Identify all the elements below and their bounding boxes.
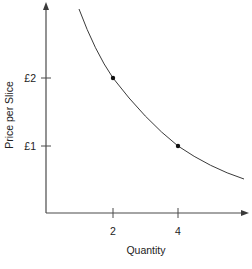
y-axis-label: Price per Slice: [3, 81, 15, 149]
demand-curve: [79, 9, 244, 179]
y-tick-label-1: £1: [24, 140, 36, 152]
data-point-q4-p1: [176, 144, 180, 148]
x-axis-arrow-icon: [241, 210, 249, 216]
x-tick-label-2: 2: [110, 225, 116, 237]
data-point-q2-p2: [111, 76, 115, 80]
y-tick-label-2: £2: [24, 72, 36, 84]
y-axis-arrow-icon: [43, 2, 49, 10]
demand-curve-chart: £2 £1 Price per Slice 2 4 Quantity: [0, 0, 252, 269]
x-axis-label: Quantity: [126, 244, 166, 256]
x-axis: 2 4 Quantity: [46, 208, 249, 256]
y-axis: £2 £1 Price per Slice: [3, 2, 51, 213]
x-tick-label-4: 4: [175, 225, 181, 237]
